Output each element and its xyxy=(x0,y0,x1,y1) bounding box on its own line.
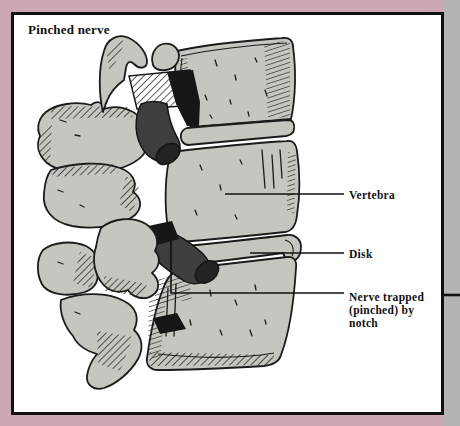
label-nerve-line1: Nerve trapped xyxy=(349,291,424,304)
nerve-upper xyxy=(136,102,184,169)
articular-knob xyxy=(152,44,179,71)
label-disk: Disk xyxy=(349,248,373,260)
label-nerve-line2: (pinched) by xyxy=(349,304,414,317)
spine-illustration: Vertebra Disk Nerve trapped (pinched) by… xyxy=(0,0,460,426)
label-vertebra: Vertebra xyxy=(349,189,395,201)
vertebra-body-middle xyxy=(166,141,300,242)
label-nerve-line3: notch xyxy=(349,317,378,329)
